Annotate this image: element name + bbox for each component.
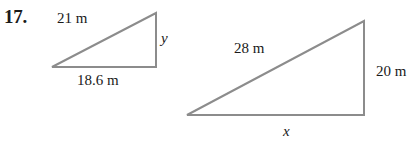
- large-triangle-outline: [187, 21, 364, 115]
- large-triangle-hypotenuse-label: 28 m: [234, 41, 264, 56]
- large-triangle-base-label: x: [283, 124, 290, 139]
- small-triangle-hypotenuse-label: 21 m: [57, 11, 87, 26]
- similar-triangles-figure: 17. 21 m 18.6 m y 28 m 20 m x: [0, 0, 420, 142]
- small-triangle-vertical-label: y: [161, 31, 168, 46]
- large-right-triangle-shape: [187, 21, 364, 115]
- large-triangle-vertical-label: 20 m: [376, 64, 406, 79]
- problem-number: 17.: [4, 7, 27, 26]
- small-triangle-base-label: 18.6 m: [77, 73, 119, 88]
